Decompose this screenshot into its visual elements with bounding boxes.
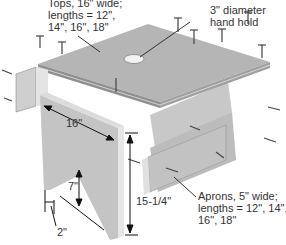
left-apron <box>16 67 36 112</box>
notch-height-label: 7" <box>68 180 78 192</box>
side-height-label: 15-1/4" <box>136 195 171 207</box>
tops-callout: Tops, 16" wide; lengths = 12", 14", 16",… <box>48 0 122 33</box>
side-width-label: 16" <box>66 117 82 129</box>
stool-diagram: Tops, 16" wide; lengths = 12", 14", 16",… <box>0 0 286 245</box>
aprons-callout: Aprons, 5" wide; lengths = 12", 14", 16"… <box>198 190 286 226</box>
top-panel <box>38 24 270 102</box>
dim-foot-line <box>45 190 56 226</box>
dim-height-line <box>125 133 138 235</box>
front-side-panel-edge <box>118 126 124 238</box>
foot-width-label: 2" <box>57 226 67 238</box>
hand-hold-callout: 3" diameter hand hold <box>210 4 266 28</box>
